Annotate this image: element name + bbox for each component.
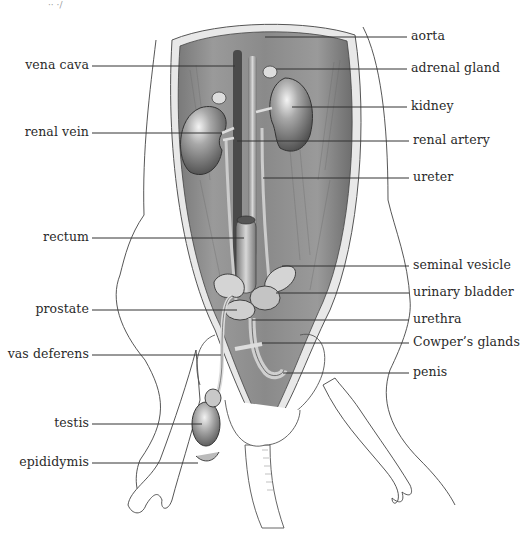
perineal-skin xyxy=(225,400,300,446)
adrenal-left xyxy=(212,92,226,104)
label-testis: testis xyxy=(54,416,89,430)
rectum-opening xyxy=(237,216,255,224)
label-aorta: aorta xyxy=(411,29,445,43)
label-urethra: urethra xyxy=(413,312,462,326)
label-vas-deferens: vas deferens xyxy=(8,347,89,361)
label-rectum: rectum xyxy=(43,230,89,244)
label-ureter: ureter xyxy=(413,170,453,184)
label-prostate: prostate xyxy=(35,302,89,316)
label-vena-cava: vena cava xyxy=(25,58,89,72)
left-hind-leg xyxy=(128,350,200,513)
epididymis-organ xyxy=(205,389,221,407)
right-hind-leg xyxy=(323,378,412,503)
label-urinary-bladder: urinary bladder xyxy=(413,285,514,299)
scrotal-fold-left xyxy=(197,335,215,385)
label-renal-artery: renal artery xyxy=(413,133,490,147)
label-adrenal-gland: adrenal gland xyxy=(411,61,500,75)
anatomy-diagram: ·· ·/ xyxy=(0,0,526,534)
bladder-organ xyxy=(250,286,280,310)
label-epididymis: epididymis xyxy=(19,455,89,469)
label-seminal-vesicle: seminal vesicle xyxy=(413,258,511,272)
label-penis: penis xyxy=(413,365,447,379)
label-renal-vein: renal vein xyxy=(25,125,89,139)
tail xyxy=(245,445,284,528)
epididymis-tail xyxy=(196,452,219,461)
label-cowpers-glands: Cowper’s glands xyxy=(413,335,520,349)
adrenal-right xyxy=(263,66,277,78)
label-kidney: kidney xyxy=(411,99,454,113)
